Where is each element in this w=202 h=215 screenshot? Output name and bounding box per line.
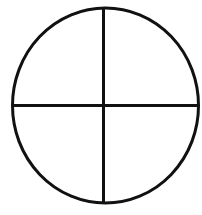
background — [0, 0, 202, 215]
quartered-circle-diagram — [0, 0, 202, 215]
